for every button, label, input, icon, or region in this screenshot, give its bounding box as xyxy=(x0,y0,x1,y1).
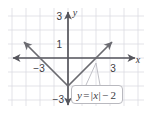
equation-callout-box: y=|x|−2 xyxy=(71,85,123,104)
equation-constant: 2 xyxy=(109,89,117,101)
equation-equals: = xyxy=(82,89,91,101)
x-axis-name-label: x xyxy=(135,54,141,65)
y-tick-label-3: 3 xyxy=(56,11,62,22)
x-tick-label-negative-3: −3 xyxy=(33,63,45,74)
equation-text: y=|x|−2 xyxy=(77,89,117,101)
absolute-value-graph-figure: −3 3 3 1 −3 x y y=|x|−2 xyxy=(0,0,148,114)
y-tick-label-negative-3: −3 xyxy=(53,94,65,105)
y-tick-label-1: 1 xyxy=(56,39,62,50)
y-axis-name-label: y xyxy=(72,7,78,18)
curve-right-branch xyxy=(68,42,112,86)
x-tick-label-3: 3 xyxy=(110,63,116,74)
